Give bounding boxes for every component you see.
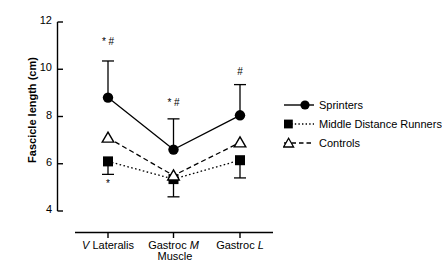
- data-series: [102, 61, 246, 197]
- y-tick-label: 4: [30, 203, 52, 215]
- data-point-marker: [168, 144, 178, 154]
- y-axis-ticks: [58, 22, 64, 211]
- y-tick-label: 8: [30, 109, 52, 121]
- legend-label: Controls: [315, 137, 360, 149]
- data-point-marker: [103, 92, 113, 102]
- data-point-marker: [234, 137, 246, 147]
- x-axis-title: Muscle: [120, 250, 230, 262]
- legend: Sprinters Middle Distance Runners Contro…: [283, 95, 442, 152]
- x-tick-label: Gastroc L: [194, 239, 286, 251]
- open-triangle-dashed-line-icon: [283, 136, 315, 150]
- data-point-marker: [102, 132, 114, 142]
- data-point-marker: [103, 156, 113, 166]
- axes: [58, 22, 274, 238]
- legend-label: Middle Distance Runners: [315, 118, 442, 130]
- legend-item-middle-distance-runners: Middle Distance Runners: [283, 114, 442, 133]
- data-point-marker: [235, 110, 245, 120]
- significance-marker: * #: [88, 36, 128, 47]
- y-tick-label: 12: [30, 14, 52, 26]
- y-tick-label: 6: [30, 156, 52, 168]
- significance-marker: * #: [154, 97, 194, 108]
- y-tick-label: 10: [30, 61, 52, 73]
- filled-square-dotted-line-icon: [283, 117, 315, 131]
- legend-item-controls: Controls: [283, 133, 442, 152]
- significance-marker: *: [88, 178, 128, 189]
- legend-label: Sprinters: [315, 99, 363, 111]
- data-point-marker: [235, 155, 245, 165]
- x-axis-ticks: [108, 233, 240, 239]
- legend-item-sprinters: Sprinters: [283, 95, 442, 114]
- significance-marker: #: [220, 66, 260, 77]
- filled-circle-solid-line-icon: [283, 98, 315, 112]
